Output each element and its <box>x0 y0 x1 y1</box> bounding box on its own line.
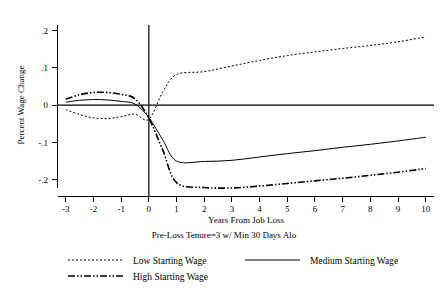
x-tick-label: 4 <box>257 204 262 214</box>
series-line-low-starting-wage <box>66 37 426 120</box>
y-axis-tick-labels: .2.10-.1-.2 <box>38 26 48 185</box>
x-tick-label: 1 <box>174 204 179 214</box>
x-tick-label: 0 <box>147 204 152 214</box>
legend-label-medium-starting-wage: Medium Starting Wage <box>310 256 398 266</box>
legend-label-high-starting-wage: High Starting Wage <box>133 272 208 282</box>
wage-change-line-chart: .2.10-.1-.2 -3-2-1012345678910 Percent W… <box>0 0 442 289</box>
x-tick-label: 6 <box>313 204 318 214</box>
x-tick-label: 5 <box>285 204 290 214</box>
x-tick-label: 2 <box>202 204 207 214</box>
x-axis-title: Years From Job Loss <box>208 215 284 225</box>
series-line-medium-starting-wage <box>66 100 426 163</box>
x-axis-ticks <box>66 197 426 203</box>
y-tick-label: 0 <box>44 100 49 110</box>
chart-legend: Low Starting Wage Medium Starting Wage H… <box>68 256 398 282</box>
x-tick-label: -1 <box>117 204 125 214</box>
x-tick-label: 9 <box>396 204 401 214</box>
x-tick-label: 8 <box>368 204 373 214</box>
y-tick-label: -.2 <box>38 175 48 185</box>
series-line-high-starting-wage <box>66 92 426 188</box>
y-tick-label: .2 <box>41 26 48 36</box>
x-tick-label: 7 <box>340 204 345 214</box>
figure-container: .2.10-.1-.2 -3-2-1012345678910 Percent W… <box>0 0 442 289</box>
x-tick-label: 10 <box>421 204 431 214</box>
y-axis-ticks <box>52 31 58 180</box>
y-axis-title: Percent Wage Change <box>16 65 26 144</box>
x-tick-label: -3 <box>62 204 70 214</box>
legend-label-low-starting-wage: Low Starting Wage <box>133 256 206 266</box>
y-tick-label: .1 <box>41 63 48 73</box>
x-tick-label: -2 <box>90 204 98 214</box>
x-axis-tick-labels: -3-2-1012345678910 <box>62 204 431 214</box>
y-tick-label: -.1 <box>38 138 48 148</box>
x-tick-label: 3 <box>230 204 235 214</box>
chart-subtitle: Pre-Loss Tenure=3 w/ Min 30 Days Alo <box>152 230 297 240</box>
